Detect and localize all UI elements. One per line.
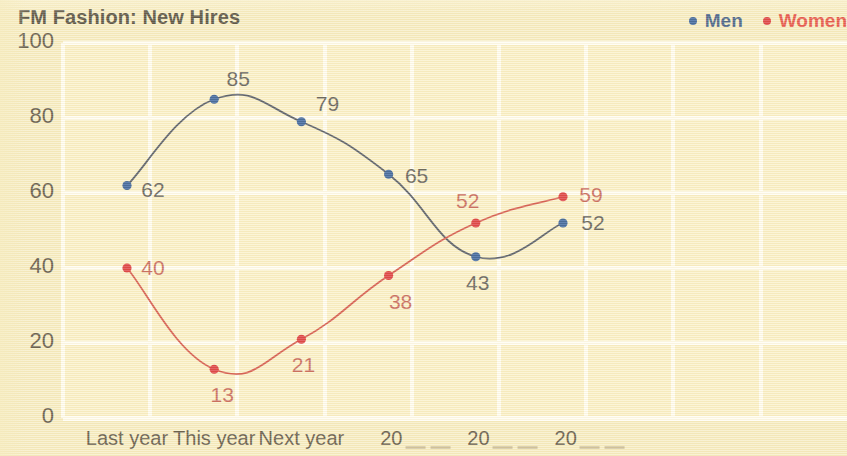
x-tick-year-partial: 20	[555, 427, 577, 450]
x-axis-tick-label: This year	[173, 427, 255, 450]
series-line-men	[127, 95, 563, 259]
x-axis-tick-label: 20	[467, 427, 489, 450]
x-axis-tick-label: Next year	[259, 427, 345, 450]
y-axis-tick-label: 20	[2, 328, 54, 354]
dot-icon	[763, 17, 771, 25]
legend-label-women: Women	[779, 10, 847, 32]
x-axis-line	[63, 418, 847, 421]
legend-entry-women[interactable]: Women	[763, 10, 847, 32]
x-axis-tick-label: Last year	[86, 427, 168, 450]
data-point-marker[interactable]	[558, 218, 567, 227]
data-point-marker[interactable]	[558, 192, 567, 201]
cropped-digit-marks	[405, 446, 450, 449]
chart-title: FM Fashion: New Hires	[18, 6, 240, 29]
x-axis-tick-label: 20	[555, 427, 577, 450]
chart-legend: Men Women	[689, 10, 847, 32]
chart-screenshot: FM Fashion: New Hires Men Women 10080604…	[0, 0, 847, 456]
data-point-marker[interactable]	[471, 252, 480, 261]
x-axis-tick-label: 20	[380, 427, 402, 450]
data-point-marker[interactable]	[210, 365, 219, 374]
series-layer	[63, 43, 847, 418]
data-point-marker[interactable]	[122, 181, 131, 190]
data-point-marker[interactable]	[122, 263, 131, 272]
cropped-digit-marks	[493, 446, 538, 449]
dot-icon	[689, 17, 697, 25]
data-point-marker[interactable]	[384, 271, 393, 280]
cropped-digit-marks	[580, 446, 625, 449]
data-point-marker[interactable]	[384, 170, 393, 179]
data-point-marker[interactable]	[210, 95, 219, 104]
y-axis-tick-label: 60	[2, 178, 54, 204]
data-point-marker[interactable]	[297, 117, 306, 126]
data-point-marker[interactable]	[297, 335, 306, 344]
data-point-marker[interactable]	[471, 218, 480, 227]
y-axis-tick-label: 100	[2, 28, 54, 54]
y-axis-tick-label: 80	[2, 103, 54, 129]
legend-label-men: Men	[705, 10, 743, 32]
y-axis-tick-label: 40	[2, 253, 54, 279]
legend-entry-men[interactable]: Men	[689, 10, 743, 32]
x-tick-year-partial: 20	[380, 427, 402, 450]
y-axis-tick-label: 0	[2, 403, 54, 429]
series-line-women	[127, 197, 563, 374]
x-tick-year-partial: 20	[467, 427, 489, 450]
plot-area	[63, 43, 847, 418]
